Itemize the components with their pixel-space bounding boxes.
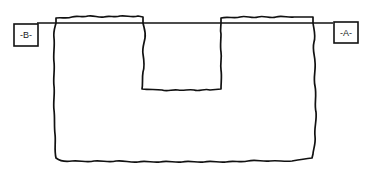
- endpoint-box-a: -A-: [334, 22, 358, 43]
- endpoint-label-b: -B-: [20, 30, 32, 40]
- endpoint-box-b: -B-: [14, 24, 38, 46]
- u-shaped-region: [54, 16, 316, 162]
- diagram-canvas: -B- -A-: [0, 0, 370, 173]
- endpoint-label-a: -A-: [340, 28, 352, 38]
